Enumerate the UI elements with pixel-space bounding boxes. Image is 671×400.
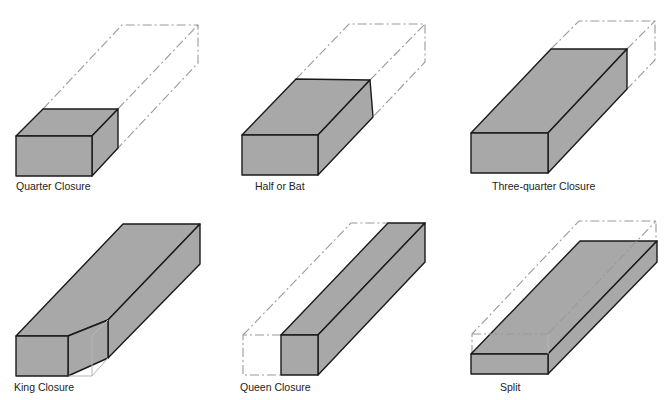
caption-half-or-bat: Half or Bat: [255, 180, 305, 192]
front-face: [471, 354, 548, 374]
front-face: [281, 335, 318, 375]
figure-queen-closure: [243, 223, 425, 375]
figure-quarter-closure: [16, 25, 198, 176]
figure-half-or-bat: [242, 24, 425, 175]
figure-king-closure: [16, 224, 200, 376]
figure-three-quarter-closure: [471, 21, 655, 173]
caption-queen-closure: Queen Closure: [240, 381, 311, 393]
caption-split: Split: [500, 381, 520, 393]
front-face: [16, 136, 92, 176]
figure-split: [471, 221, 657, 374]
front-face: [16, 336, 68, 376]
front-face: [242, 135, 318, 175]
caption-quarter-closure: Quarter Closure: [16, 180, 91, 192]
caption-three-quarter-closure: Three-quarter Closure: [492, 180, 595, 192]
diagram-canvas: [0, 0, 671, 400]
caption-king-closure: King Closure: [14, 381, 74, 393]
front-face: [471, 133, 548, 173]
